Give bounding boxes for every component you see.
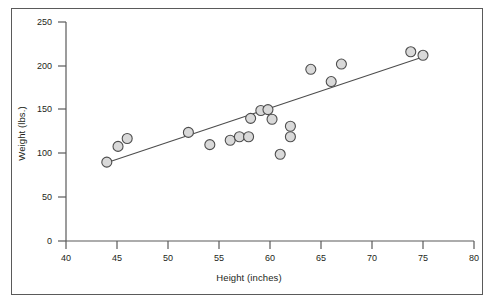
y-tick-label-50: 50 xyxy=(22,192,52,202)
y-axis-title: Weight (lbs.) xyxy=(16,84,27,184)
data-point xyxy=(418,50,428,60)
data-point xyxy=(406,47,416,57)
data-point xyxy=(285,132,295,142)
data-point xyxy=(122,134,132,144)
x-axis-title: Height (inches) xyxy=(0,272,498,283)
x-tick-label-45: 45 xyxy=(102,253,132,263)
x-tick-label-60: 60 xyxy=(255,253,285,263)
y-axis-ticks xyxy=(58,22,66,241)
data-point xyxy=(267,114,277,124)
data-points xyxy=(102,47,428,167)
data-point xyxy=(205,140,215,150)
x-tick-label-65: 65 xyxy=(306,253,336,263)
data-point xyxy=(102,157,112,167)
data-point xyxy=(263,105,273,115)
data-point xyxy=(336,59,346,69)
y-tick-label-0: 0 xyxy=(22,236,52,246)
data-point xyxy=(246,113,256,123)
x-tick-label-70: 70 xyxy=(357,253,387,263)
data-point xyxy=(326,77,336,87)
y-tick-label-200: 200 xyxy=(22,61,52,71)
data-point xyxy=(183,127,193,137)
y-tick-label-150: 150 xyxy=(22,104,52,114)
x-tick-label-75: 75 xyxy=(408,253,438,263)
x-tick-label-50: 50 xyxy=(153,253,183,263)
x-tick-label-55: 55 xyxy=(204,253,234,263)
data-point xyxy=(244,132,254,142)
data-point xyxy=(234,132,244,142)
x-axis-ticks xyxy=(66,241,474,249)
data-point xyxy=(275,149,285,159)
y-tick-label-250: 250 xyxy=(22,17,52,27)
data-point xyxy=(306,64,316,74)
scatter-plot-figure: 250 200 150 100 50 0 40 45 50 55 60 65 7… xyxy=(0,0,498,303)
y-tick-label-100: 100 xyxy=(22,148,52,158)
x-tick-label-80: 80 xyxy=(459,253,489,263)
data-point xyxy=(285,121,295,131)
data-point xyxy=(225,135,235,145)
x-tick-label-40: 40 xyxy=(51,253,81,263)
data-point xyxy=(113,141,123,151)
